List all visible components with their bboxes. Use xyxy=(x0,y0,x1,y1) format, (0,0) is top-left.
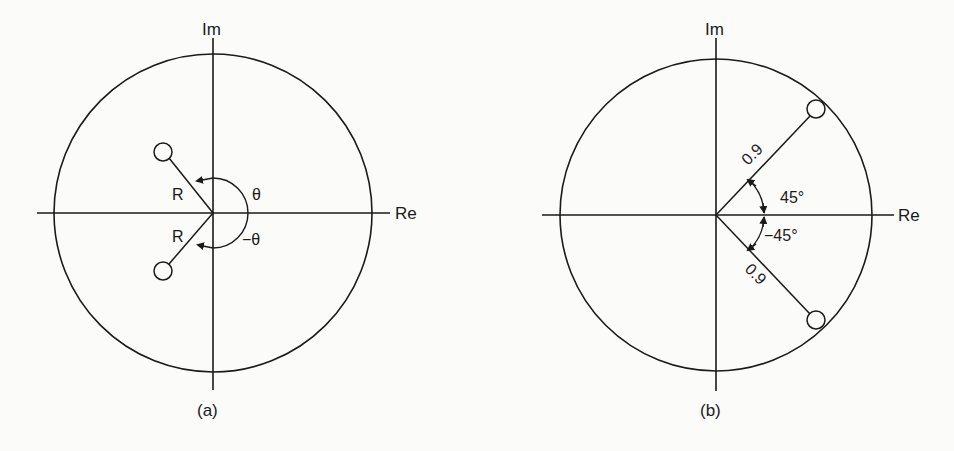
magnitude-label-lower: 0.9 xyxy=(742,260,770,288)
real-axis-label: Re xyxy=(898,206,920,225)
magnitude-label-lower: R xyxy=(172,228,184,245)
real-axis-label: Re xyxy=(395,204,417,223)
imaginary-axis-label: Im xyxy=(705,20,724,39)
arrow-icon xyxy=(763,218,764,227)
panel-a: Im Re R R θ −θ (a) xyxy=(37,20,417,420)
angle-label-theta: θ xyxy=(252,186,261,203)
arrow-icon xyxy=(198,245,213,248)
zero-plot-figure: Im Re R R θ −θ (a) Im Re xyxy=(0,0,954,451)
zero-marker-upper xyxy=(807,100,825,118)
angle-label-neg-theta: −θ xyxy=(242,231,260,248)
angle-label-45: 45° xyxy=(780,189,804,206)
arrow-icon xyxy=(748,180,756,186)
magnitude-label-upper: R xyxy=(172,186,184,203)
angle-arc-theta-upper xyxy=(213,178,248,213)
panel-caption-b: (b) xyxy=(700,401,721,420)
zero-marker-lower xyxy=(807,311,825,329)
angle-arc-neg-45 xyxy=(749,217,764,250)
magnitude-label-upper: 0.9 xyxy=(738,140,766,168)
angle-arc-45 xyxy=(749,180,764,213)
arrow-icon xyxy=(763,203,764,212)
panel-b: Im Re 0.9 0.9 45° −45° (b) xyxy=(542,20,920,420)
zero-marker-lower xyxy=(154,262,172,280)
panel-caption-a: (a) xyxy=(197,401,218,420)
imaginary-axis-label: Im xyxy=(202,20,221,39)
arrow-icon xyxy=(197,178,213,181)
angle-label-neg-45: −45° xyxy=(764,227,798,244)
arrow-icon xyxy=(748,244,756,250)
zero-marker-upper xyxy=(154,143,172,161)
